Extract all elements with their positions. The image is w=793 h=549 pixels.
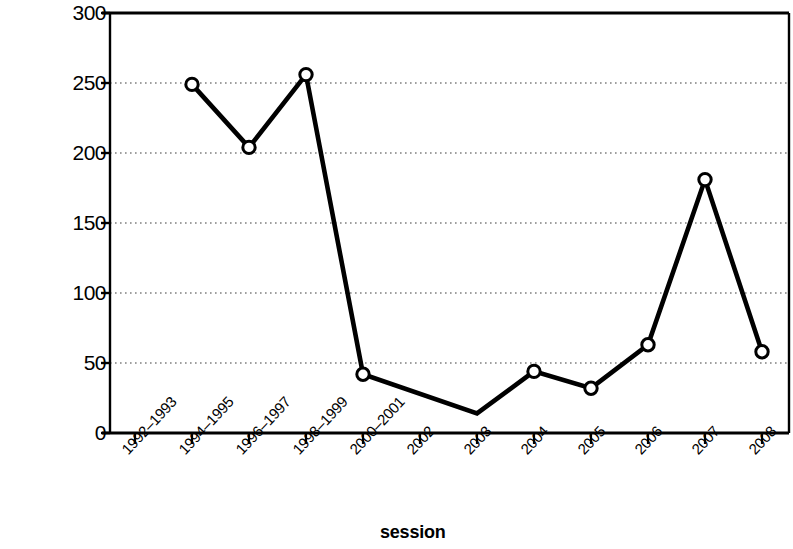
x-tick-8: 2005 (574, 422, 608, 457)
x-axis-title: session (380, 522, 446, 543)
x-tick-3: 1998–1999 (289, 393, 351, 458)
x-tick-9: 2006 (631, 422, 665, 457)
x-tick-10: 2007 (688, 422, 722, 457)
x-axis-tick-labels: 1992–1993 1994–1995 1996–1997 1998–1999 … (0, 0, 793, 549)
x-tick-6: 2003 (460, 422, 494, 457)
x-tick-4: 2000–2001 (346, 393, 408, 458)
x-tick-7: 2004 (517, 422, 551, 457)
x-tick-1: 1994–1995 (175, 393, 237, 458)
x-tick-0: 1992–1993 (118, 393, 180, 458)
x-tick-11: 2008 (745, 422, 779, 457)
chart-figure: proposed regulations reviewed 300 250 20… (0, 0, 793, 549)
x-tick-2: 1996–1997 (232, 393, 294, 458)
x-tick-5: 2002 (403, 422, 437, 457)
